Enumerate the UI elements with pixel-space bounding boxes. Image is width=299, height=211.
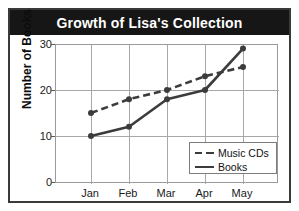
legend-swatch-dashed-icon	[195, 148, 214, 158]
y-tick-labels: 30 20 10 0	[24, 44, 52, 183]
y-tick-label-0: 0	[26, 177, 52, 188]
y-tick-label-20: 20	[26, 85, 52, 96]
title-banner: Growth of Lisa's Collection	[10, 10, 289, 35]
legend-item-music-cds: Music CDs	[195, 146, 272, 159]
x-tick-label-jan: Jan	[70, 187, 110, 199]
y-tick-label-10: 10	[26, 131, 52, 142]
legend: Music CDs Books	[189, 142, 277, 174]
legend-item-books: Books	[195, 160, 272, 173]
chart-figure: Growth of Lisa's Collection Number of Bo…	[0, 0, 299, 211]
legend-swatch-solid-icon	[195, 162, 214, 172]
chart-title: Growth of Lisa's Collection	[56, 15, 242, 31]
legend-label-books: Books	[218, 161, 247, 173]
x-tick-label-may: May	[222, 187, 262, 199]
x-tick-label-mar: Mar	[146, 187, 186, 199]
legend-label-music-cds: Music CDs	[218, 147, 269, 159]
y-tick-label-30: 30	[26, 39, 52, 50]
x-tick-label-feb: Feb	[108, 187, 148, 199]
plot-area: Music CDs Books	[55, 44, 278, 183]
x-tick-label-apr: Apr	[184, 187, 224, 199]
